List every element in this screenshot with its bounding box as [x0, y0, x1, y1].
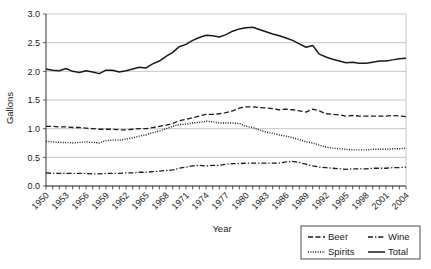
line-chart: 0.00.51.01.52.02.53.0 195019531956195919…: [0, 0, 431, 269]
y-tick-label: 0.0: [27, 181, 40, 191]
y-tick-label: 0.5: [27, 153, 40, 163]
legend-label-total: Total: [388, 246, 408, 257]
chart-container: 0.00.51.01.52.02.53.0 195019531956195919…: [0, 0, 431, 269]
legend-label-wine: Wine: [388, 231, 410, 242]
x-axis-title: Year: [212, 223, 231, 234]
y-tick-label: 3.0: [27, 9, 40, 19]
chart-legend: BeerWineSpiritsTotal: [301, 226, 420, 259]
y-tick-label: 2.5: [27, 38, 40, 48]
y-axis-title: Gallons: [4, 92, 15, 124]
y-tick-label: 1.0: [27, 124, 40, 134]
y-tick-label: 1.5: [27, 95, 40, 105]
legend-label-beer: Beer: [328, 231, 348, 242]
y-tick-label: 2.0: [27, 67, 40, 77]
legend-label-spirits: Spirits: [328, 246, 355, 257]
